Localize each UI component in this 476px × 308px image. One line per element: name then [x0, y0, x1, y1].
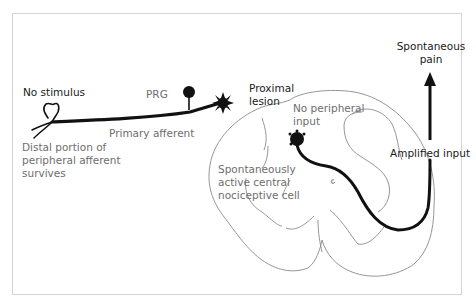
- label-spontaneous-cell-line-1: Spontaneously: [218, 163, 300, 176]
- label-distal-portion: Distal portion of peripheral afferent su…: [22, 141, 121, 180]
- label-prg: PRG: [146, 88, 168, 101]
- label-amplified-input: Amplified input: [390, 147, 470, 160]
- label-distal-line-3: survives: [22, 167, 121, 180]
- proximal-lesion-icon: [212, 92, 234, 114]
- prg-ganglion-icon: [183, 86, 195, 110]
- label-spontaneous-pain: Spontaneous pain: [395, 40, 467, 66]
- label-spontaneous-pain-line-2: pain: [395, 53, 467, 66]
- label-distal-line-2: peripheral afferent: [22, 154, 121, 167]
- label-distal-line-1: Distal portion of: [22, 141, 121, 154]
- label-no-peripheral-input: No peripheral input: [293, 102, 364, 128]
- primary-afferent-fiber: [52, 103, 222, 122]
- spontaneous-pain-arrow: [424, 72, 436, 140]
- label-proximal-lesion: Proximal lesion: [249, 82, 294, 108]
- label-proximal-line-2: lesion: [249, 95, 294, 108]
- label-spontaneous-pain-line-1: Spontaneous: [395, 40, 467, 53]
- label-no-peripheral-line-2: input: [293, 115, 364, 128]
- label-proximal-line-1: Proximal: [249, 82, 294, 95]
- gray-matter-right: [330, 210, 386, 244]
- label-no-stimulus: No stimulus: [23, 86, 85, 99]
- label-spontaneous-cell: Spontaneously active central nociceptive…: [218, 163, 300, 202]
- label-spontaneous-cell-line-2: active central: [218, 176, 300, 189]
- central-canal: [332, 180, 335, 184]
- label-no-peripheral-line-1: No peripheral: [293, 102, 364, 115]
- label-spontaneous-cell-line-3: nociceptive cell: [218, 189, 300, 202]
- label-primary-afferent: Primary afferent: [109, 127, 194, 140]
- gray-matter-ventral: [286, 216, 314, 229]
